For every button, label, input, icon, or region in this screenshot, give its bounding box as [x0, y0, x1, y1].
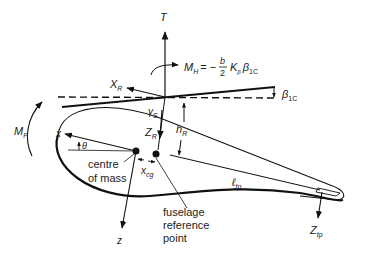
svg-text:MF: MF [14, 125, 28, 139]
z-body-axis [122, 151, 136, 228]
svg-text:hR: hR [176, 123, 187, 137]
fuselage-moment-arc [27, 102, 42, 156]
svg-text:MH= −: MH= − [184, 61, 216, 75]
frp-label-1: fuselage [163, 206, 205, 218]
svg-text:Kββ1C: Kββ1C [230, 61, 258, 75]
svg-text:XR: XR [109, 78, 122, 92]
centre-of-mass-label-2: of mass [88, 172, 127, 184]
fuselage-force-diagram: T MH= − b 2 Kββ1C β1C XR γS ZR hR MF x θ [0, 0, 371, 259]
fuselage-outline-upper [58, 108, 344, 200]
thrust-label: T [160, 11, 168, 23]
centre-of-mass-label-1: centre [88, 158, 119, 170]
svg-text:xcg: xcg [140, 165, 154, 179]
x-axis-label: x [55, 128, 62, 139]
fuselage-reference-point [153, 151, 160, 158]
z-axis-label: z [116, 235, 122, 246]
svg-text:β1C: β1C [281, 88, 297, 102]
svg-text:b: b [220, 56, 225, 66]
theta-label: θ [82, 141, 87, 151]
x-body-axis [65, 134, 136, 151]
tail-rotor [316, 188, 340, 196]
svg-text:2: 2 [220, 68, 225, 78]
frp-label-2: reference [163, 219, 209, 231]
frp-label-3: point [163, 232, 187, 244]
x-cg-dimension [138, 159, 144, 160]
svg-text:γS: γS [148, 106, 158, 119]
x-r-arrow [127, 88, 165, 97]
svg-text:Ztp: Ztp [309, 224, 323, 239]
horizontal-reference [68, 150, 136, 151]
svg-text:ZR: ZR [144, 126, 157, 140]
